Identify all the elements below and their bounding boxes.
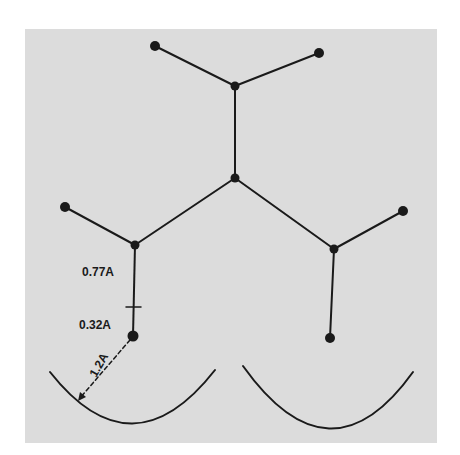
atom-right-tip — [398, 206, 408, 216]
bond-top-left — [155, 46, 235, 86]
atom-top-left-tip — [150, 41, 160, 51]
bond-top-right — [235, 53, 319, 86]
bond-center-left — [135, 178, 235, 245]
molecule-diagram: 0.77A 0.32A 1.2A — [0, 0, 460, 455]
bond-left-down — [133, 245, 135, 336]
atom-left-tip — [60, 202, 70, 212]
hydrogen-radius-label: 0.32A — [79, 318, 111, 332]
bond-left-tip — [65, 207, 135, 245]
atom-left-bottom — [128, 331, 139, 342]
atom-right-bottom — [325, 333, 335, 343]
bond-center-right — [235, 178, 334, 249]
bond-right-tip — [334, 211, 403, 249]
bond-right-down — [330, 249, 334, 338]
right-arc — [243, 366, 413, 429]
atom-top-center — [231, 82, 240, 91]
atom-top-right-tip — [314, 48, 324, 58]
left-arc — [50, 370, 215, 424]
atom-right-branch — [330, 245, 339, 254]
distance-label: 1.2A — [86, 350, 111, 379]
atom-center — [231, 174, 240, 183]
bond-length-label: 0.77A — [82, 265, 114, 279]
atom-left-branch — [131, 241, 140, 250]
